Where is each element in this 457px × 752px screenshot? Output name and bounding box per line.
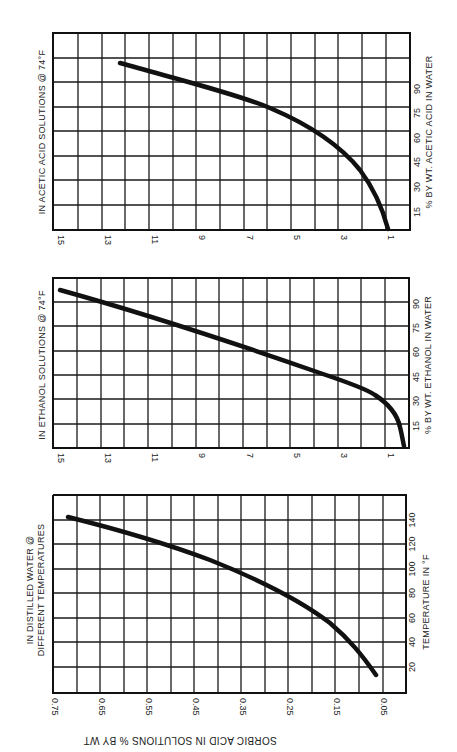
svg-text:15: 15 xyxy=(56,235,66,245)
svg-text:60: 60 xyxy=(411,347,421,357)
ethanol-x-label: % BY WT. ETHANOL IN WATER xyxy=(423,296,433,434)
ethanol-sol-ticks: 15 13 11 9 7 5 3 1 xyxy=(56,453,396,463)
svg-text:45: 45 xyxy=(411,372,421,382)
svg-text:80: 80 xyxy=(407,588,417,598)
svg-text:11: 11 xyxy=(150,235,160,244)
svg-text:0.45: 0.45 xyxy=(191,698,201,716)
svg-text:30: 30 xyxy=(412,182,422,192)
ethanol-title: IN ETHANOL SOLUTIONS @ 74°F xyxy=(37,290,47,440)
svg-text:15: 15 xyxy=(412,207,422,217)
svg-text:0.25: 0.25 xyxy=(285,698,295,716)
svg-text:40: 40 xyxy=(407,637,417,647)
svg-text:140: 140 xyxy=(407,512,417,527)
acetic-x-ticks: 15 30 45 60 75 90 xyxy=(412,84,422,217)
water-title-line1: IN DISTILLED WATER @ xyxy=(25,536,35,645)
acetic-grid xyxy=(53,33,410,230)
svg-text:60: 60 xyxy=(407,613,417,623)
svg-text:20: 20 xyxy=(407,662,417,672)
water-x-label: TEMPERATURE IN °F xyxy=(421,554,431,650)
acetic-x-label: % BY WT. ACETIC ACID IN WATER xyxy=(424,55,434,208)
svg-text:5: 5 xyxy=(292,235,302,240)
water-title-line2: DIFFERENT TEMPERATURES xyxy=(36,524,46,657)
svg-text:7: 7 xyxy=(245,235,255,240)
svg-text:45: 45 xyxy=(412,157,422,167)
svg-text:1: 1 xyxy=(386,453,396,458)
water-panel: 0.75 0.65 0.55 0.45 0.35 0.25 0.15 0.05 … xyxy=(25,495,431,716)
shared-solubility-axis-label: SORBIC ACID IN SOLUTIONS % BY WT xyxy=(83,735,276,746)
svg-text:60: 60 xyxy=(412,133,422,143)
svg-text:9: 9 xyxy=(197,453,207,458)
sorbic-acid-solubility-figure: 15 13 11 9 7 5 3 1 15 30 45 60 75 90 % B… xyxy=(0,0,457,752)
svg-text:13: 13 xyxy=(103,235,113,245)
svg-text:0.35: 0.35 xyxy=(238,698,248,716)
svg-text:0.15: 0.15 xyxy=(332,698,342,716)
water-curve xyxy=(68,517,376,675)
ethanol-curve xyxy=(60,290,404,446)
svg-text:75: 75 xyxy=(412,108,422,118)
svg-text:3: 3 xyxy=(339,453,349,458)
svg-text:1: 1 xyxy=(386,235,396,240)
svg-text:5: 5 xyxy=(292,453,302,458)
svg-text:120: 120 xyxy=(407,536,417,551)
svg-text:0.55: 0.55 xyxy=(144,698,154,716)
svg-text:30: 30 xyxy=(411,396,421,406)
svg-text:75: 75 xyxy=(411,323,421,333)
svg-text:3: 3 xyxy=(339,235,349,240)
acetic-acid-panel: 15 13 11 9 7 5 3 1 15 30 45 60 75 90 % B… xyxy=(37,33,434,245)
water-sol-ticks: 0.75 0.65 0.55 0.45 0.35 0.25 0.15 0.05 xyxy=(50,698,389,716)
svg-text:9: 9 xyxy=(197,235,207,240)
acetic-curve xyxy=(120,63,388,229)
svg-text:13: 13 xyxy=(103,453,113,463)
ethanol-panel: 15 13 11 9 7 5 3 1 15 30 45 60 75 90 % B… xyxy=(37,278,433,463)
svg-text:15: 15 xyxy=(56,453,66,463)
acetic-sol-ticks: 15 13 11 9 7 5 3 1 xyxy=(56,235,396,245)
svg-text:90: 90 xyxy=(412,84,422,94)
svg-text:7: 7 xyxy=(245,453,255,458)
water-x-ticks: 20 40 60 80 100 120 140 xyxy=(407,512,417,672)
svg-text:15: 15 xyxy=(411,421,421,431)
svg-text:0.05: 0.05 xyxy=(379,698,389,716)
ethanol-x-ticks: 15 30 45 60 75 90 xyxy=(411,299,421,431)
acetic-title: IN ACETIC ACID SOLUTIONS @ 74°F xyxy=(37,50,47,215)
svg-text:0.65: 0.65 xyxy=(97,698,107,716)
svg-text:90: 90 xyxy=(411,299,421,309)
svg-text:100: 100 xyxy=(407,561,417,576)
svg-text:11: 11 xyxy=(150,453,160,462)
svg-text:0.75: 0.75 xyxy=(50,698,60,716)
